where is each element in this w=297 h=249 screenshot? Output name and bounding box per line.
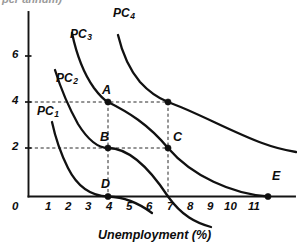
phillips-curve-chart: per annum) — [0, 0, 297, 249]
x-tick-label-3: 3 — [85, 201, 91, 213]
curve-label-pc4: PC4 — [113, 7, 134, 19]
curve-pc4 — [118, 35, 296, 152]
x-tick-label-2: 2 — [65, 201, 71, 213]
x-axis-title: Unemployment (%) — [98, 229, 211, 242]
point-label-a: A — [102, 84, 111, 97]
point-d — [105, 193, 111, 199]
y-tick-label-4: 4 — [12, 95, 18, 107]
curve-label-pc1-text: PC — [37, 104, 54, 118]
x-tick-label-8: 8 — [187, 201, 193, 213]
y-tick-label-0: 0 — [12, 201, 18, 213]
point-label-b: B — [100, 131, 109, 144]
curve-label-pc3: PC3 — [70, 28, 91, 40]
point-c — [165, 145, 171, 151]
curve-label-pc1-sub: 1 — [54, 109, 59, 119]
point-label-c: C — [173, 131, 182, 144]
curve-label-pc3-text: PC — [70, 27, 87, 41]
x-tick-label-7: 7 — [167, 201, 173, 213]
x-tick-label-4: 4 — [106, 201, 112, 213]
x-tick-label-9: 9 — [207, 201, 213, 213]
curve-label-pc2-text: PC — [56, 71, 73, 85]
curve-label-pc4-text: PC — [113, 6, 130, 20]
curve-label-pc2-sub: 2 — [73, 76, 78, 86]
y-tick-label-6: 6 — [12, 49, 18, 61]
x-tick-label-11: 11 — [248, 201, 260, 213]
point-b — [105, 145, 111, 151]
point-pc4-at-6-4 — [165, 99, 171, 105]
curve-label-pc3-sub: 3 — [87, 32, 92, 42]
y-tick-label-2: 2 — [12, 141, 18, 153]
curve-pc3 — [72, 33, 268, 197]
curve-label-pc1: PC1 — [37, 105, 58, 117]
x-tick-label-6: 6 — [146, 201, 152, 213]
curve-label-pc4-sub: 4 — [130, 11, 135, 21]
point-e — [265, 193, 271, 199]
x-tick-label-5: 5 — [126, 201, 132, 213]
x-tick-label-10: 10 — [224, 201, 237, 213]
point-label-d: D — [101, 178, 110, 191]
x-tick-label-1: 1 — [45, 201, 51, 213]
point-label-e: E — [272, 170, 280, 183]
curve-label-pc2: PC2 — [56, 72, 77, 84]
point-a — [105, 99, 111, 105]
